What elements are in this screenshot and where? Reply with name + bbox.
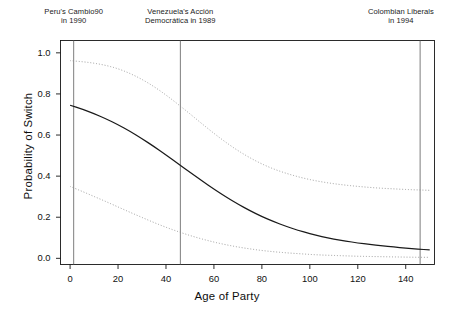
series-line-0 <box>70 105 430 250</box>
x-axis-title: Age of Party <box>0 290 454 302</box>
series-line-2 <box>70 186 430 257</box>
series-line-1 <box>70 61 430 191</box>
chart-figure: Peru's Cambio90 in 1990 Venezuela's Acci… <box>0 0 454 319</box>
y-axis-title: Probability of Switch <box>22 56 34 236</box>
plot-canvas <box>0 0 454 319</box>
